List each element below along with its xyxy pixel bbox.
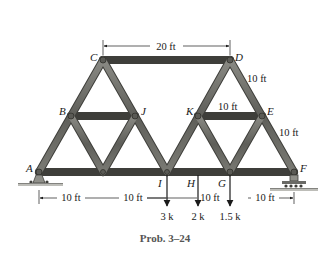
pin-a — [36, 169, 42, 175]
dimension-label-top-span: 20 ft — [156, 41, 176, 52]
pin-e — [259, 113, 265, 119]
node-label-c: C — [90, 51, 98, 63]
dimension-label-hg: 10 ft — [200, 192, 220, 203]
pin-j — [132, 113, 138, 119]
dimension-label-ih: 10 ft — [123, 192, 143, 203]
dimension-label-de: 10 ft — [247, 73, 267, 84]
load-label-g: 1.5 k — [220, 211, 242, 222]
dimension-label-ef: 10 ft — [279, 127, 299, 138]
node-label-g: G — [218, 177, 226, 189]
pin-d — [227, 57, 233, 63]
node-label-k: K — [185, 105, 194, 117]
load-label-h: 2 k — [191, 211, 205, 222]
node-label-f: F — [299, 162, 307, 174]
node-label-d: D — [234, 51, 243, 63]
dimension-label-ke: 10 ft — [218, 101, 238, 112]
pin-f — [291, 169, 297, 175]
dimension-label-ai: 10 ft — [61, 192, 81, 203]
pin-b — [68, 113, 74, 119]
load-label-i: 3 k — [160, 211, 174, 222]
node-label-i: I — [157, 177, 163, 189]
node-label-b: B — [59, 105, 66, 117]
truss-diagram: A B C D E F G H I J K 20 ft 10 ft 10 ft … — [0, 0, 330, 262]
roller-support-f — [270, 175, 318, 191]
pin-c — [100, 57, 106, 63]
node-label-j: J — [141, 105, 147, 117]
pin-support-a — [18, 175, 63, 186]
figure-caption: Prob. 3–24 — [140, 232, 191, 244]
pin-k — [195, 113, 201, 119]
node-label-h: H — [186, 177, 196, 189]
dimension-label-gf: 10 ft — [255, 192, 275, 203]
node-label-e: E — [266, 105, 274, 117]
node-label-a: A — [25, 162, 33, 174]
pin-g — [227, 169, 233, 175]
